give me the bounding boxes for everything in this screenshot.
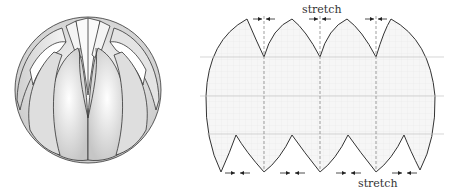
gore-outline	[206, 19, 435, 172]
stretch-label-bottom: stretch	[358, 177, 398, 190]
gore-pattern: stretch stretch	[200, 3, 444, 190]
folded-sphere	[15, 17, 161, 163]
stretch-label-top: stretch	[302, 3, 342, 16]
figure-canvas: stretch stretch	[0, 0, 456, 196]
